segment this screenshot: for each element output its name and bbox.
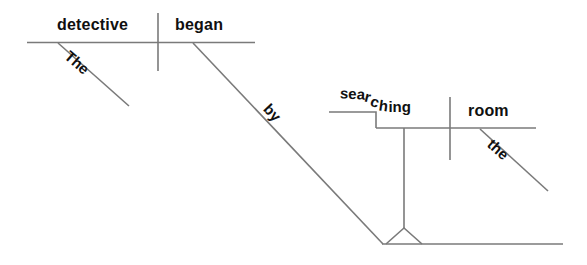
pedestal-triangle xyxy=(386,228,422,244)
word-object: room xyxy=(468,103,509,119)
word-subject: detective xyxy=(57,17,128,33)
word-gerund-part-5: ing xyxy=(388,99,411,114)
gerund-step-line xyxy=(329,112,376,128)
word-gerund: searching xyxy=(340,86,411,101)
word-gerund-part-1: sea xyxy=(340,85,366,101)
sentence-diagram: detective began The by searching room th… xyxy=(0,0,587,265)
diagram-lines xyxy=(0,0,587,265)
article-object-line xyxy=(480,129,548,191)
word-verb: began xyxy=(175,17,223,33)
preposition-line xyxy=(193,43,383,244)
